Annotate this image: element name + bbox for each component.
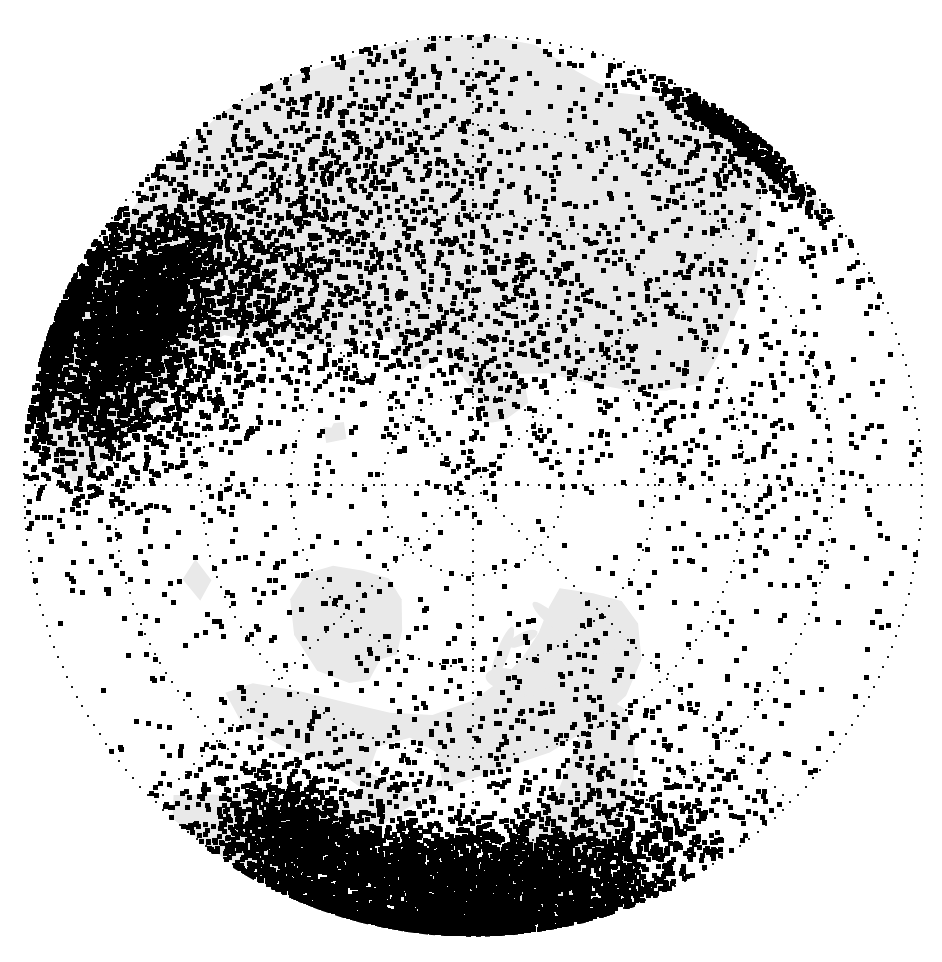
polar-map-figure: north-polar-stereographic: [0, 0, 942, 962]
polar-stereographic-map-canvas: [0, 0, 942, 962]
